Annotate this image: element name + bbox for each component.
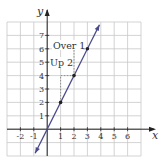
x-tick-label: 3 [85,132,90,141]
data-point [72,74,76,78]
y-axis-label: y [36,5,44,18]
x-tick-label: 4 [98,132,103,141]
y-tick-label: 2 [39,98,44,107]
coordinate-plane: -2-11234561234567 y x Over 1 Up 2 [0,0,162,163]
annotation-up-2: Up 2 [50,57,73,68]
data-point [59,101,63,105]
line-arrow-bottom-icon [35,147,40,153]
y-tick-label: 4 [39,72,44,81]
x-tick-label: 2 [71,132,76,141]
y-tick-label: 5 [39,58,44,67]
x-tick-label: -1 [30,132,38,141]
y-tick-label: 3 [39,85,44,94]
x-tick-label: 6 [125,132,130,141]
x-tick-label: 5 [112,132,117,141]
y-tick-label: 7 [39,31,44,40]
data-point [86,47,90,51]
x-tick-label: 1 [58,132,63,141]
y-axis-arrow-icon [45,9,50,16]
annotation-over-1: Over 1 [53,40,85,51]
y-tick-label: 6 [39,45,44,54]
x-axis-label: x [152,129,159,142]
y-tick-label: 1 [39,112,44,121]
x-tick-label: -2 [17,132,25,141]
line-arrow-top-icon [95,25,100,31]
